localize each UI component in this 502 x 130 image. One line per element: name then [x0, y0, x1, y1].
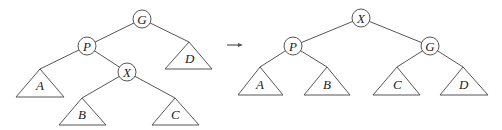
node-label-X-before: X: [122, 65, 132, 80]
subtree-label-A-before: A: [35, 78, 44, 93]
subtree-label-B-before: B: [78, 107, 86, 122]
subtree-label-D-after: D: [458, 77, 469, 92]
node-label-X-after: X: [356, 11, 366, 26]
subtree-label-D-before: D: [184, 51, 195, 66]
tree-rotation-diagram: A D B C G P X A B C D X P: [0, 0, 502, 130]
node-label-G-before: G: [137, 12, 147, 27]
subtree-label-C-after: C: [393, 77, 402, 92]
after-tree: A B C D X P G: [238, 9, 488, 95]
arrow-head-icon: [238, 43, 243, 47]
before-tree: A D B C G P X: [16, 10, 212, 125]
node-label-P-before: P: [82, 39, 91, 54]
edge-X-G: [361, 18, 430, 46]
transform-arrow: [227, 43, 243, 47]
subtree-label-C-before: C: [171, 107, 180, 122]
node-label-P-after: P: [288, 39, 297, 54]
node-label-G-after: G: [425, 39, 435, 54]
subtree-label-A-after: A: [255, 77, 264, 92]
subtree-label-B-after: B: [323, 77, 331, 92]
edge-X-P: [293, 18, 361, 46]
